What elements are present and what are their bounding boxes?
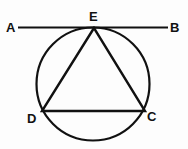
point-label-c: C — [147, 110, 156, 123]
point-label-a: A — [6, 21, 15, 34]
geometry-figure: A E B D C — [0, 0, 188, 149]
point-label-e: E — [89, 10, 98, 23]
point-label-d: D — [27, 112, 36, 125]
point-label-b: B — [170, 21, 179, 34]
circumscribed-circle — [37, 28, 150, 141]
